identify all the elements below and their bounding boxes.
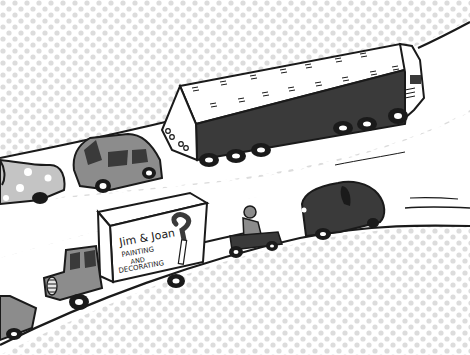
- illustration: Jim & Joan PAINTING AND DECORATING: [0, 0, 470, 355]
- traffic-scene: Jim & Joan PAINTING AND DECORATING: [0, 0, 470, 355]
